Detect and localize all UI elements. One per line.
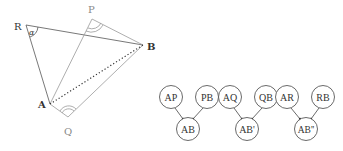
node-label: AB'' (298, 125, 315, 135)
segment-P-B (92, 19, 143, 45)
edge (234, 108, 242, 119)
edge (291, 108, 300, 119)
node-label: AP (165, 92, 178, 103)
segment-Q-B (68, 45, 143, 117)
node-label: AB (181, 124, 195, 135)
edge (252, 108, 262, 119)
node-label: QB (259, 92, 273, 103)
edge (193, 108, 203, 119)
tree-2: AQ QB AB' (219, 86, 278, 141)
node-label: AQ (223, 92, 238, 103)
node-label: PB (201, 92, 214, 103)
node-label: AB' (239, 124, 255, 135)
point-label-A: A (37, 99, 46, 110)
point-label-Q: Q (64, 126, 72, 137)
tree-3: AR RB AB'' (276, 86, 335, 141)
quadrilateral-figure: R P B A Q α (14, 4, 155, 137)
node-label: AR (280, 92, 294, 103)
angle-arc-Q-inner (62, 109, 74, 113)
point-label-P: P (88, 4, 95, 15)
segment-Q-A (50, 104, 68, 117)
edge (311, 108, 319, 119)
edge (175, 108, 183, 119)
node-label: RB (316, 92, 330, 103)
segment-A-B-dotted (50, 45, 143, 104)
diagram-canvas: R P B A Q α AP PB AB AQ QB AB' (0, 0, 343, 151)
tree-1: AP PB AB (160, 86, 219, 141)
angle-label-alpha: α (29, 28, 35, 37)
point-label-B: B (147, 41, 155, 52)
point-label-R: R (14, 21, 22, 32)
